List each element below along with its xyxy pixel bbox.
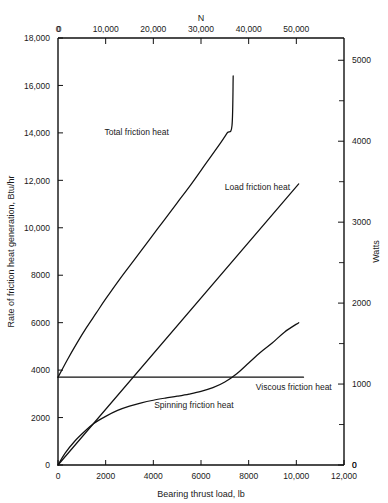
y2-tick-label: 3000	[352, 217, 371, 227]
y-tick-label: 6000	[31, 318, 50, 328]
y2-tick-label: 2000	[352, 298, 371, 308]
x2-tick-label: 40,000	[236, 24, 262, 34]
friction-heat-chart: 0200040006000800010,00012,000010,00020,0…	[0, 0, 388, 503]
y2-tick-label: 5000	[352, 55, 371, 65]
y-tick-label: 12,000	[24, 176, 50, 186]
top-axis-origin-label: 0	[57, 24, 62, 34]
x-tick-label: 8000	[239, 471, 258, 481]
curve-label-spinning-friction-heat: Spinning friction heat	[154, 400, 234, 410]
y-tick-label: 4000	[31, 365, 50, 375]
right-axis-origin-label: 0	[352, 460, 357, 470]
x-tick-label: 4000	[144, 471, 163, 481]
y-tick-label: 16,000	[24, 81, 50, 91]
x-axis-title: Bearing thrust load, lb	[157, 489, 245, 499]
y-tick-label: 8000	[31, 270, 50, 280]
y-tick-label: 10,000	[24, 223, 50, 233]
curve-label-total-friction-heat: Total friction heat	[105, 127, 170, 137]
y2-axis-title: Watts	[371, 240, 381, 263]
series-curve-total-friction-heat	[58, 76, 233, 377]
x-tick-label: 2000	[96, 471, 115, 481]
curve-label-viscous-friction-heat: Viscous friction heat	[256, 382, 333, 392]
curve-label-load-friction-heat: Load friction heat	[225, 182, 291, 192]
y-tick-label: 0	[45, 460, 50, 470]
y-tick-label: 2000	[31, 413, 50, 423]
x2-tick-label: 30,000	[188, 24, 214, 34]
x2-tick-label: 50,000	[283, 24, 309, 34]
y2-tick-label: 1000	[352, 379, 371, 389]
chart-figure: 0200040006000800010,00012,000010,00020,0…	[0, 0, 388, 503]
top-axis-title: N	[198, 13, 205, 23]
x-tick-label: 12,000	[331, 471, 357, 481]
y-tick-label: 18,000	[24, 33, 50, 43]
series-curve-spinning-friction-heat	[58, 323, 299, 465]
y2-tick-label: 4000	[352, 136, 371, 146]
x2-tick-label: 20,000	[140, 24, 166, 34]
y-tick-label: 14,000	[24, 128, 50, 138]
x-tick-label: 0	[56, 471, 61, 481]
x-tick-label: 6000	[192, 471, 211, 481]
y-axis-title: Rate of friction heat generation, Btu/hr	[6, 175, 16, 327]
x-tick-label: 10,000	[283, 471, 309, 481]
x2-tick-label: 10,000	[93, 24, 119, 34]
